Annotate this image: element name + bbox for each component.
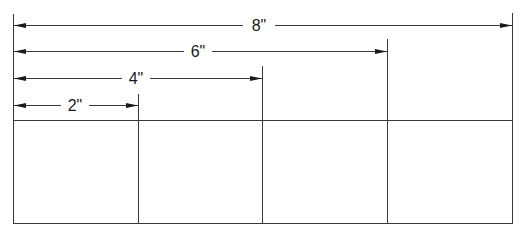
dimension-8in: 8"	[14, 17, 512, 34]
segmented-strip	[14, 121, 513, 224]
dimension-diagram: 8" 6" 4" 2"	[0, 0, 524, 232]
dimension-6in: 6"	[14, 43, 387, 60]
dimension-4in: 4"	[14, 70, 262, 87]
dimension-2in: 2"	[14, 97, 138, 114]
dimension-label-8in: 8"	[252, 17, 267, 34]
dimension-label-4in: 4"	[129, 70, 144, 87]
dimension-label-2in: 2"	[68, 97, 83, 114]
dimension-label-6in: 6"	[191, 43, 206, 60]
